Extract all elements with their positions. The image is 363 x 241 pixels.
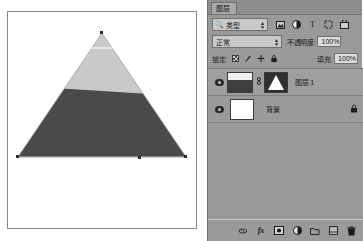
filter-type-select[interactable]: 🔍 类型 ▲▼ (212, 18, 268, 31)
blend-mode-value: 正常 (216, 37, 274, 47)
selection-handle-bottom-left[interactable] (16, 155, 19, 158)
eye-icon (215, 79, 224, 86)
eye-icon (215, 106, 224, 113)
layer-row-1[interactable]: 图层 1 (208, 69, 363, 96)
layer-visibility-toggle-2[interactable] (211, 106, 227, 113)
layer-thumbnail-1[interactable] (227, 72, 253, 93)
layer-mask-thumbnail-1[interactable] (264, 72, 288, 93)
lock-transparent-pixels-icon[interactable] (231, 55, 239, 63)
filter-pixel-icon[interactable] (276, 20, 285, 29)
panel-tab-strip: 图层 (208, 0, 362, 15)
layer-style-button[interactable]: fx (256, 226, 266, 236)
lock-image-pixels-icon[interactable] (244, 55, 252, 63)
fill-input[interactable]: 100% (334, 53, 358, 64)
link-layers-button[interactable] (238, 226, 248, 236)
layer-name-2[interactable]: 背景 (254, 104, 348, 114)
mask-triangle-shape (268, 75, 284, 90)
filter-adjustment-icon[interactable] (292, 20, 301, 29)
layers-panel-bottom-bar: fx (208, 219, 363, 241)
blend-mode-select[interactable]: 正常 ▲▼ (212, 35, 282, 48)
link-mask-icon[interactable] (254, 76, 263, 88)
document-canvas[interactable] (7, 11, 197, 229)
canvas-area (0, 0, 207, 241)
filter-smartobject-icon[interactable] (340, 20, 349, 29)
selection-handle-bottom-center[interactable] (138, 156, 141, 159)
lock-label: 锁定: (212, 54, 227, 64)
selection-handle-top[interactable] (100, 31, 103, 34)
lock-buttons (231, 55, 278, 63)
opacity-label: 不透明度: (287, 37, 315, 47)
layer-list[interactable]: 图层 1 背景 (208, 68, 363, 219)
layer-visibility-toggle-1[interactable] (211, 79, 227, 86)
layers-panel: 图层 🔍 类型 ▲▼ T (207, 0, 362, 241)
layer-row-2[interactable]: 背景 (208, 96, 363, 123)
layer-filter-row: 🔍 类型 ▲▼ T (208, 15, 362, 33)
layer-locked-icon (348, 104, 360, 115)
add-layer-mask-button[interactable] (274, 226, 284, 236)
blend-opacity-row: 正常 ▲▼ 不透明度: 100% (208, 33, 362, 50)
layer-name-1[interactable]: 图层 1 (288, 77, 360, 87)
tab-layers[interactable]: 图层 (211, 2, 237, 14)
new-group-button[interactable] (310, 226, 320, 236)
lock-all-icon[interactable] (270, 55, 278, 63)
selection-handle-bottom-right[interactable] (184, 155, 187, 158)
search-icon: 🔍 (215, 21, 224, 29)
filter-type-icon[interactable]: T (308, 20, 317, 29)
new-layer-button[interactable] (328, 226, 338, 236)
blend-stepper-icon[interactable]: ▲▼ (274, 38, 279, 46)
new-adjustment-layer-button[interactable] (292, 226, 302, 236)
opacity-input[interactable]: 100% (317, 36, 341, 47)
lock-fill-row: 锁定: 填充: 100% (208, 50, 362, 67)
fill-label: 填充: (317, 54, 332, 64)
filter-type-label: 类型 (224, 20, 260, 30)
filter-kind-icons: T (276, 20, 349, 29)
filter-stepper-icon[interactable]: ▲▼ (260, 21, 265, 29)
filter-shape-icon[interactable] (324, 20, 333, 29)
delete-layer-button[interactable] (346, 226, 356, 236)
layer-thumbnail-2[interactable] (230, 99, 254, 120)
lock-position-icon[interactable] (257, 55, 265, 63)
triangle-artwork (8, 12, 196, 228)
tab-layers-label: 图层 (216, 5, 230, 12)
